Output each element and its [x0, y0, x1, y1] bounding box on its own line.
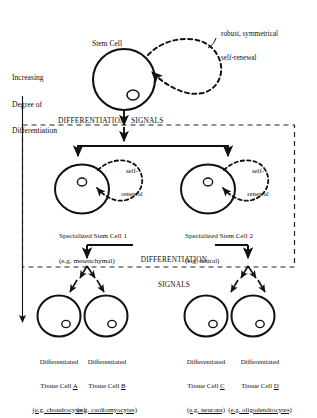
signals-label-top-left: DIFFERENTIATION [58, 117, 125, 126]
differentiated-cell-b-body [85, 296, 128, 337]
cell-d-line2: Tissue Cell D [222, 382, 298, 390]
stem-cell-self-renewal-loop [148, 39, 221, 94]
differentiated-cell-d-label: Differentiated Tissue Cell D (e.g. oligo… [222, 342, 298, 418]
stem-cell-label: Stem Cell [83, 40, 131, 49]
self-renewal-left-line1: self- [117, 167, 147, 175]
cell-b-line2: Tissue Cell B [75, 382, 139, 390]
signals-label-top-right: SIGNALS [131, 117, 164, 126]
axis-label-line3: Differentiation [12, 127, 57, 136]
self-renewal-label-right: self- renewal [243, 151, 273, 214]
cell-d-prefix: Tissue Cell [241, 382, 274, 389]
specialized-stem-cell-1-label: Specialized Stem Cell 1 (e.g. mesenchyma… [59, 216, 127, 281]
signals-lower-line1: DIFFERENTIATION [135, 256, 213, 264]
differentiated-cell-b-label: Differentiated Tissue Cell B (e.g. cardi… [75, 342, 139, 418]
split-bracket-specialized [78, 145, 228, 156]
axis-label-increasing-differentiation: Increasing Degree of Differentiation [12, 57, 57, 153]
signals-lower-line2: SIGNALS [135, 281, 213, 289]
differentiated-cell-d-body [232, 296, 275, 337]
cell-b-prefix: Tissue Cell [88, 382, 121, 389]
top-annotation: robust, symmetrical self-renewal [221, 13, 278, 79]
cell-b-line1: Differentiated [75, 358, 139, 366]
specialized-stem-cell-1-name: Specialized Stem Cell 1 [59, 232, 127, 240]
axis-label-line2: Degree of [12, 101, 57, 110]
cell-d-letter: D [274, 382, 279, 389]
self-renewal-right-line2: renewal [243, 190, 273, 198]
cell-d-line1: Differentiated [222, 358, 298, 366]
cell-a-prefix: Tissue Cell [40, 382, 72, 389]
cell-c-prefix: Tissue Cell [187, 382, 220, 389]
axis-label-line1: Increasing [12, 74, 57, 83]
differentiated-cell-a-body [38, 296, 81, 337]
self-renewal-label-left: self- renewal [117, 151, 147, 214]
stem-cell-body [93, 49, 155, 110]
cell-b-example: (e.g. cardiomyocytes) [75, 406, 139, 414]
self-renewal-right-line1: self- [243, 167, 273, 175]
top-annotation-line2: self-renewal [221, 54, 278, 62]
top-annotation-line1: robust, symmetrical [221, 30, 278, 38]
signals-label-lower: DIFFERENTIATION SIGNALS [135, 239, 213, 306]
cell-b-letter: B [121, 382, 126, 389]
specialized-stem-cell-1-example: (e.g. mesenchymal) [59, 257, 127, 265]
cell-d-example: (e.g. oligodendrocytes) [222, 406, 298, 414]
self-renewal-left-line2: renewal [117, 190, 147, 198]
